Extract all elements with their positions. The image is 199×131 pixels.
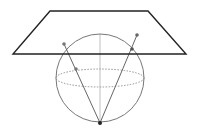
projection-pole-dot: [98, 121, 102, 125]
left-projection-ray: [64, 44, 100, 123]
left-plane-point-dot: [62, 42, 66, 46]
right-sphere-point-dot: [130, 47, 134, 51]
left-sphere-point-dot: [74, 67, 78, 71]
right-plane-point-dot: [135, 33, 139, 37]
stereographic-projection-diagram: [0, 0, 199, 131]
